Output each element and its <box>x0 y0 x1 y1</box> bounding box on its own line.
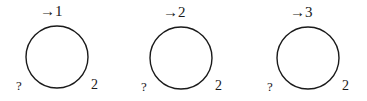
left-label-3: ? <box>267 80 273 93</box>
circle-2 <box>150 27 212 89</box>
circle-3 <box>277 27 339 89</box>
right-label-2: 2 <box>215 79 222 93</box>
top-label-3: →3 <box>290 5 313 20</box>
top-label-1: →1 <box>40 4 63 19</box>
right-label-3: 2 <box>342 79 349 93</box>
left-label-1: ? <box>16 79 22 92</box>
left-label-2: ? <box>141 80 147 93</box>
top-label-2: →2 <box>163 5 186 20</box>
right-label-1: 2 <box>91 78 98 92</box>
circle-1 <box>26 26 88 88</box>
